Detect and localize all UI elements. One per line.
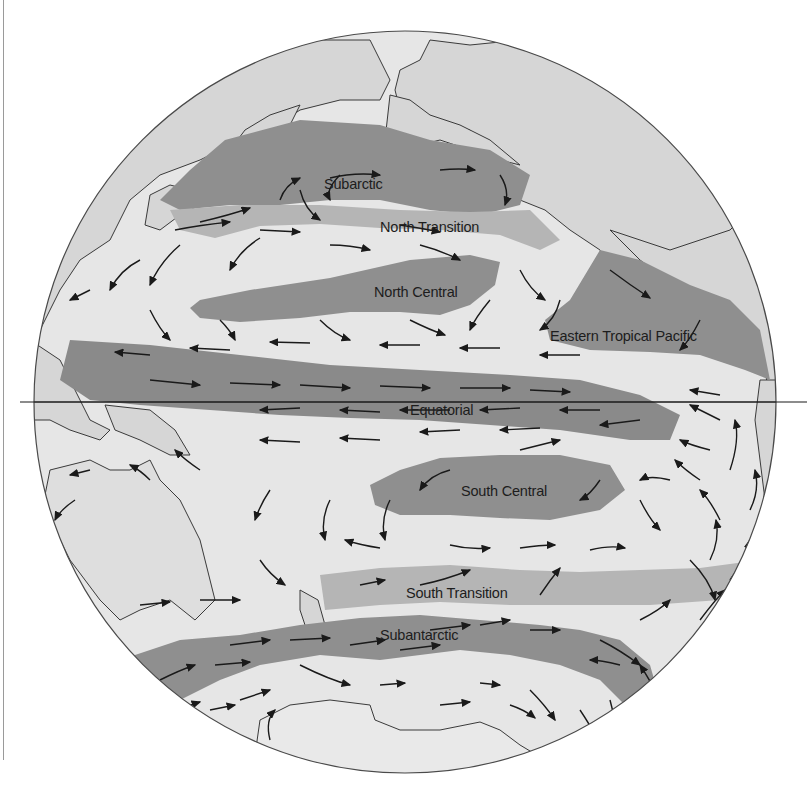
label-south-transition: South Transition xyxy=(406,585,508,601)
pacific-provinces-map: Subarctic North Transition North Central… xyxy=(0,0,807,789)
label-eastern-tropical-pacific: Eastern Tropical Pacific xyxy=(550,328,697,344)
label-subantarctic: Subantarctic xyxy=(380,627,458,643)
label-subarctic: Subarctic xyxy=(324,176,383,192)
label-north-transition: North Transition xyxy=(380,219,479,235)
label-north-central: North Central xyxy=(374,284,458,300)
label-equatorial: Equatorial xyxy=(410,402,473,418)
label-south-central: South Central xyxy=(461,483,547,499)
